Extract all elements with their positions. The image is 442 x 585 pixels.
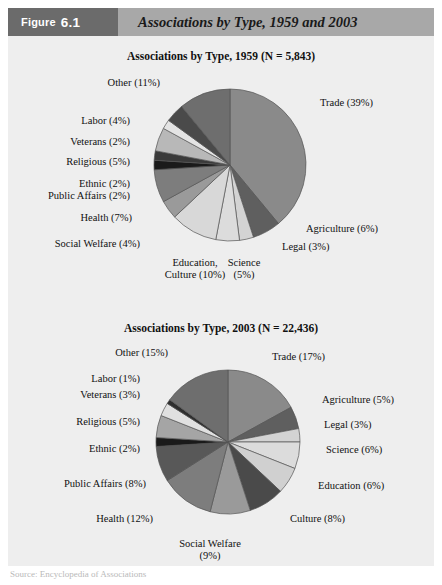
pie-label: Trade (17%) xyxy=(272,351,325,363)
pie-label: Education (6%) xyxy=(318,480,385,492)
pie-label: Science (6%) xyxy=(326,444,383,456)
pie-label: Ethnic (2%) xyxy=(89,443,141,455)
pie-label: Trade (39%) xyxy=(320,97,373,109)
pie-label: Social Welfare(9%) xyxy=(179,538,241,562)
pie-label: Religious (5%) xyxy=(76,416,140,428)
pie-label: Veterans (2%) xyxy=(70,136,130,148)
source-strip: Source: Encyclopedia of Associations xyxy=(0,566,442,585)
pie-label: Science(5%) xyxy=(228,257,261,281)
pie-label: Agriculture (6%) xyxy=(306,223,379,235)
pie-label: Public Affairs (8%) xyxy=(64,478,147,490)
source-note: Source: Encyclopedia of Associations xyxy=(10,569,146,579)
pie-label: Culture (8%) xyxy=(290,513,346,525)
pie-label: Religious (5%) xyxy=(66,156,130,168)
pie-label: Social Welfare (4%) xyxy=(55,238,141,250)
pie-2003 xyxy=(156,370,300,514)
pie-label: Health (7%) xyxy=(80,212,132,224)
pie-charts-svg: Trade (39%)Agriculture (6%)Legal (3%)Sci… xyxy=(0,0,442,585)
pie-label: Education,Culture (10%) xyxy=(165,257,226,281)
pie-label: Agriculture (5%) xyxy=(322,394,395,406)
pie-label: Legal (3%) xyxy=(324,419,372,431)
pie-1959 xyxy=(154,89,306,241)
pie-label: Veterans (3%) xyxy=(80,389,140,401)
pie-label: Legal (3%) xyxy=(282,241,330,253)
pie-label: Health (12%) xyxy=(96,513,153,525)
pie-label: Other (15%) xyxy=(115,347,168,359)
pie-label: Public Affairs (2%) xyxy=(48,190,131,202)
pie-label: Labor (4%) xyxy=(81,115,130,127)
pie-label: Other (11%) xyxy=(108,77,161,89)
pie-label: Labor (1%) xyxy=(91,373,140,385)
figure-container: Figure 6.1 Associations by Type, 1959 an… xyxy=(0,0,442,585)
pie-label: Ethnic (2%) xyxy=(79,178,131,190)
